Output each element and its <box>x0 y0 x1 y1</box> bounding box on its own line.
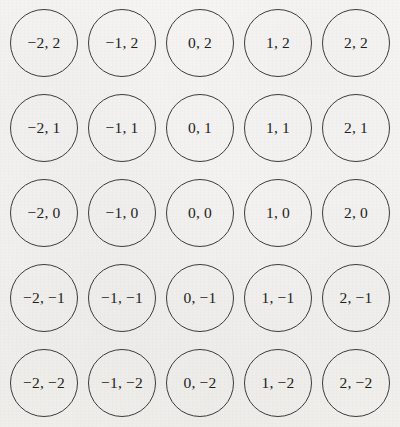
node-coordinate-label: −1, −2 <box>88 349 156 417</box>
node-coordinate-label: 0, −2 <box>166 349 234 417</box>
lattice-node: 1, 1 <box>244 94 312 162</box>
node-coordinate-label: 0, 1 <box>166 94 234 162</box>
node-coordinate-label: 0, −1 <box>166 264 234 332</box>
lattice-grid: −2, 2−1, 20, 21, 22, 2−2, 1−1, 10, 11, 1… <box>0 0 400 427</box>
lattice-node: 0, −2 <box>166 349 234 417</box>
node-coordinate-label: 2, 0 <box>322 179 390 247</box>
lattice-node: −2, −1 <box>10 264 78 332</box>
node-coordinate-label: 1, 2 <box>244 9 312 77</box>
lattice-node: −1, 2 <box>88 9 156 77</box>
lattice-node: −2, −2 <box>10 349 78 417</box>
node-coordinate-label: 1, −1 <box>244 264 312 332</box>
node-coordinate-label: 2, −1 <box>322 264 390 332</box>
lattice-node: 1, 2 <box>244 9 312 77</box>
lattice-node: 2, −2 <box>322 349 390 417</box>
lattice-node: 1, −2 <box>244 349 312 417</box>
lattice-node: −2, 2 <box>10 9 78 77</box>
node-coordinate-label: −2, 0 <box>10 179 78 247</box>
node-coordinate-label: 2, 2 <box>322 9 390 77</box>
node-coordinate-label: −2, 2 <box>10 9 78 77</box>
node-coordinate-label: −2, −1 <box>10 264 78 332</box>
lattice-node: 0, 2 <box>166 9 234 77</box>
lattice-node: −2, 1 <box>10 94 78 162</box>
lattice-figure: −2, 2−1, 20, 21, 22, 2−2, 1−1, 10, 11, 1… <box>0 0 400 427</box>
node-coordinate-label: 1, 1 <box>244 94 312 162</box>
node-coordinate-label: −1, 1 <box>88 94 156 162</box>
node-coordinate-label: −2, 1 <box>10 94 78 162</box>
node-coordinate-label: −1, −1 <box>88 264 156 332</box>
lattice-node: 0, 1 <box>166 94 234 162</box>
node-coordinate-label: 0, 0 <box>166 179 234 247</box>
lattice-node: 1, 0 <box>244 179 312 247</box>
node-coordinate-label: 0, 2 <box>166 9 234 77</box>
node-coordinate-label: 2, −2 <box>322 349 390 417</box>
node-coordinate-label: −1, 0 <box>88 179 156 247</box>
node-coordinate-label: 1, 0 <box>244 179 312 247</box>
lattice-node: 0, 0 <box>166 179 234 247</box>
node-coordinate-label: −2, −2 <box>10 349 78 417</box>
lattice-node: −1, −2 <box>88 349 156 417</box>
lattice-node: −2, 0 <box>10 179 78 247</box>
lattice-node: 2, 1 <box>322 94 390 162</box>
lattice-node: 2, 2 <box>322 9 390 77</box>
lattice-node: −1, −1 <box>88 264 156 332</box>
lattice-node: −1, 0 <box>88 179 156 247</box>
node-coordinate-label: 1, −2 <box>244 349 312 417</box>
lattice-node: 0, −1 <box>166 264 234 332</box>
node-coordinate-label: −1, 2 <box>88 9 156 77</box>
lattice-node: 2, −1 <box>322 264 390 332</box>
lattice-node: 2, 0 <box>322 179 390 247</box>
node-coordinate-label: 2, 1 <box>322 94 390 162</box>
lattice-node: −1, 1 <box>88 94 156 162</box>
lattice-node: 1, −1 <box>244 264 312 332</box>
